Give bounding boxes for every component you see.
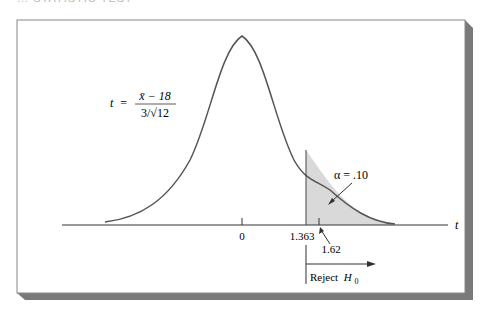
tick-label-1363: 1.363	[290, 230, 315, 242]
formula-denominator: 3/√12	[141, 106, 169, 120]
reject-word: Reject	[310, 271, 338, 283]
figure-frame	[17, 20, 465, 293]
alpha-label: α = .10	[334, 168, 368, 182]
reject-h-subscript: 0	[355, 277, 359, 286]
reject-h-symbol: H	[343, 271, 353, 283]
hypothesis-test-figure: t 0 1.363 1.62 α = .10 Reject H 0 t = x̄…	[0, 0, 493, 318]
tick-label-162: 1.62	[321, 243, 340, 255]
formula-numerator: x̄ − 18	[138, 89, 170, 103]
tick-label-0: 0	[239, 230, 245, 242]
